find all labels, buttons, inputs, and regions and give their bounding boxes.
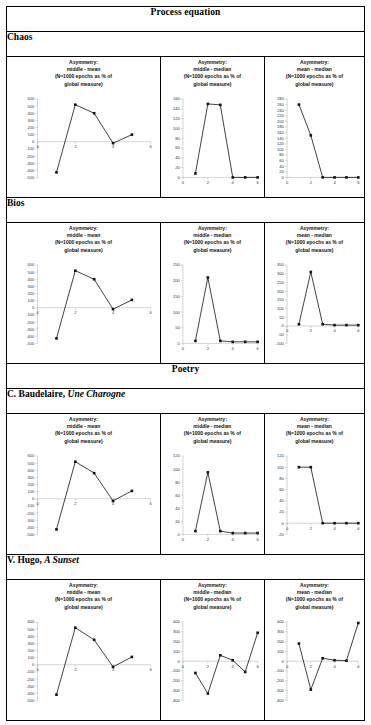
y-tick-label: 400	[28, 277, 36, 282]
y-tick-label: 350	[277, 263, 285, 268]
y-tick-label: 300	[277, 629, 285, 634]
x-tick-label: 2	[309, 328, 312, 333]
row-label-baudelaire: C. Baudelaire, Une Charogne	[7, 389, 365, 414]
row-label-hugo: V. Hugo, A Sunset	[7, 555, 365, 580]
x-tick-label: 4	[112, 144, 115, 149]
data-point-marker	[231, 532, 234, 535]
x-tick-label: 2	[207, 346, 210, 351]
section-header-poetry: Poetry	[7, 364, 365, 389]
y-tick-label: -500	[26, 532, 35, 537]
y-tick-label: 200	[28, 291, 36, 296]
y-tick-label: 500	[28, 627, 36, 632]
section-header-process-equation: Process equation	[7, 7, 365, 32]
y-tick-label: 300	[28, 475, 36, 480]
y-tick-label: 400	[277, 620, 285, 625]
y-tick-label: 500	[28, 104, 36, 109]
data-point-marker	[244, 532, 247, 535]
row-label-row-chaos: Chaos	[7, 32, 365, 57]
chart-bios-mean-median: Asymmetry:mean - median(N=1000 epochs as…	[265, 223, 364, 363]
y-tick-label: 150	[173, 294, 181, 299]
x-tick-label: 6	[256, 346, 259, 351]
plot-chaos-mean-median: 2802602402202001801601401201008060402000…	[265, 57, 364, 197]
y-tick-label: -100	[26, 503, 35, 508]
chart-row-bios: Asymmetry:middle - mean(N=1000 epochs as…	[7, 223, 365, 364]
data-point-marker	[93, 639, 96, 642]
row-label-chaos-text: Chaos	[7, 32, 32, 42]
data-point-marker	[74, 626, 77, 629]
data-point-marker	[321, 323, 324, 326]
data-point-marker	[321, 176, 324, 179]
plot-hugo-middle-mean: 6005004003002001000-100-200-300-400-5000…	[7, 580, 160, 720]
x-tick-label: 4	[232, 346, 235, 351]
section-header-row-process: Process equation	[7, 7, 365, 32]
x-tick-label: 4	[333, 180, 336, 185]
data-point-marker	[231, 341, 234, 344]
chart-chaos-middle-mean: Asymmetry:middle - mean(N=1000 epochs as…	[7, 57, 160, 197]
plot-hugo-middle-median: 4003002001000-100-200-300-4000246	[161, 580, 264, 720]
y-tick-label: -200	[26, 320, 35, 325]
series-line	[299, 467, 358, 523]
x-tick-label: 0	[182, 180, 185, 185]
y-tick-label: 300	[28, 641, 36, 646]
y-tick-label: 0	[281, 175, 284, 180]
data-point-marker	[231, 176, 234, 179]
x-tick-label: 0	[286, 328, 289, 333]
x-tick-label: 6	[357, 180, 360, 185]
data-point-marker	[244, 671, 247, 674]
data-point-marker	[256, 532, 259, 535]
x-tick-label: 0	[36, 144, 39, 149]
chart-cell-bios-middle-mean: Asymmetry:middle - mean(N=1000 epochs as…	[7, 223, 161, 364]
x-tick-label: 2	[74, 501, 77, 506]
data-point-marker	[131, 490, 134, 493]
y-tick-label: 0	[32, 139, 35, 144]
data-point-marker	[74, 103, 77, 106]
x-tick-label: 2	[207, 537, 210, 542]
data-point-marker	[112, 666, 115, 669]
chart-baudelaire-middle-mean: Asymmetry:middle - mean(N=1000 epochs as…	[7, 414, 160, 554]
data-point-marker	[309, 134, 312, 137]
x-tick-label: 0	[286, 180, 289, 185]
y-tick-label: 500	[28, 461, 36, 466]
data-point-marker	[333, 659, 336, 662]
y-tick-label: -200	[26, 677, 35, 682]
x-tick-label: 6	[357, 328, 360, 333]
row-label-bios-text: Bios	[7, 198, 24, 208]
y-tick-label: 200	[277, 639, 285, 644]
y-tick-label: 140	[277, 136, 285, 141]
chart-row-chaos: Asymmetry:middle - mean(N=1000 epochs as…	[7, 57, 365, 198]
plot-hugo-mean-median: 4003002001000-100-200-300-4000246	[265, 580, 364, 720]
data-point-marker	[194, 530, 197, 533]
data-point-marker	[309, 271, 312, 274]
y-tick-label: 40	[279, 498, 284, 503]
y-tick-label: 500	[28, 270, 36, 275]
data-point-marker	[112, 500, 115, 503]
data-point-marker	[131, 656, 134, 659]
y-tick-label: -200	[26, 154, 35, 159]
y-tick-label: 100	[173, 467, 181, 472]
y-tick-label: 600	[28, 453, 36, 458]
series-line	[299, 272, 358, 325]
y-tick-label: 40	[175, 506, 180, 511]
y-tick-label: 80	[175, 136, 180, 141]
y-tick-label: 150	[277, 297, 285, 302]
row-label-baudelaire-text: C. Baudelaire,	[7, 389, 68, 399]
data-point-marker	[345, 176, 348, 179]
data-point-marker	[74, 269, 77, 272]
y-tick-label: 250	[173, 262, 181, 267]
x-tick-label: 2	[207, 664, 210, 669]
x-tick-label: 0	[36, 310, 39, 315]
data-point-marker	[333, 176, 336, 179]
row-label-row-bios: Bios	[7, 198, 365, 223]
y-tick-label: 20	[279, 169, 284, 174]
y-tick-label: -100	[26, 146, 35, 151]
y-tick-label: 60	[175, 145, 180, 150]
y-tick-label: 200	[173, 639, 181, 644]
y-tick-label: -200	[172, 678, 181, 683]
y-tick-label: -100	[26, 669, 35, 674]
y-tick-label: 300	[28, 284, 36, 289]
y-tick-label: 400	[28, 111, 36, 116]
y-tick-label: 100	[173, 310, 181, 315]
data-point-marker	[357, 622, 360, 625]
x-tick-label: 6	[150, 144, 153, 149]
data-point-marker	[357, 176, 360, 179]
